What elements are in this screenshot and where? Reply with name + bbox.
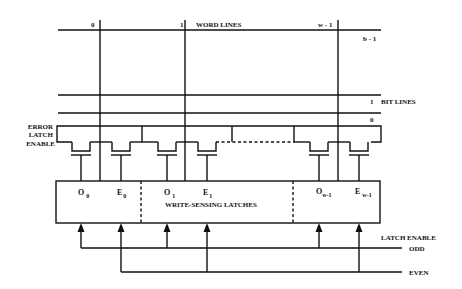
latch-cell-e0: E0 <box>117 188 126 199</box>
diagram-svg: 0 1 WORD LINES w - 1 b - 1 1 BIT LINES 0… <box>0 0 462 289</box>
transistor-o1 <box>157 142 177 181</box>
latch-enable-title: LATCH ENABLE <box>381 234 436 242</box>
transistor-e1 <box>197 142 217 181</box>
transistor-e0 <box>111 142 131 181</box>
arrow-odd-w-1 <box>316 223 323 248</box>
odd-label: ODD <box>409 245 425 253</box>
latch-cell-o0: O0 <box>78 188 89 199</box>
error-latch-enable-label-1: ERROR <box>28 123 54 131</box>
word-lines-title: WORD LINES <box>196 21 241 29</box>
bit-line-label-0: 0 <box>370 116 374 124</box>
latch-cell-o1: O1 <box>164 188 175 199</box>
latch-cell-ew-1: Ew-1 <box>355 187 372 198</box>
word-line-label-1: 1 <box>180 21 184 29</box>
latch-cell-ow-1: Ow-1 <box>316 187 332 198</box>
transistor-ew-1 <box>349 142 369 181</box>
latch-cell-e1: E1 <box>203 188 212 199</box>
arrow-odd-0 <box>78 223 85 248</box>
arrow-odd-1 <box>164 223 171 248</box>
transistor-o0 <box>71 142 91 181</box>
error-latch-enable-label-2: LATCH <box>29 131 54 139</box>
word-line-label-w-1: w - 1 <box>318 21 333 29</box>
bit-line-label-1: 1 <box>370 98 374 106</box>
write-sensing-latches-title: WRITE-SENSING LATCHES <box>165 201 257 209</box>
word-line-label-0: 0 <box>91 21 95 29</box>
memory-latch-diagram: 0 1 WORD LINES w - 1 b - 1 1 BIT LINES 0… <box>0 0 462 289</box>
error-latch-enable-bus <box>57 126 381 142</box>
error-latch-enable-label-3: ENABLE <box>26 140 55 148</box>
bit-lines-title: BIT LINES <box>381 98 416 106</box>
even-label: EVEN <box>409 269 428 277</box>
transistor-ow-1 <box>309 142 329 181</box>
bit-line-label-b-1: b - 1 <box>363 35 377 43</box>
